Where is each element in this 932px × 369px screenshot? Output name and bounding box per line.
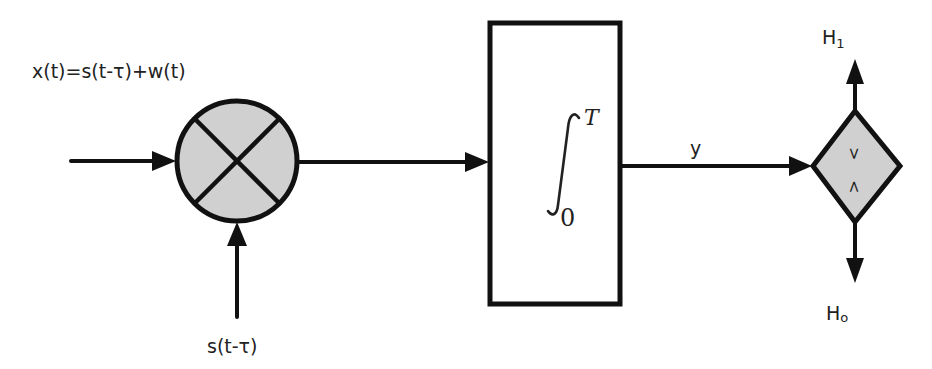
greater-than-symbol: > [845, 147, 864, 160]
hypothesis-0-label: Ho [826, 302, 848, 325]
integral-lower-limit: 0 [560, 204, 575, 232]
output-arrow [620, 156, 812, 176]
output-label: y [690, 137, 701, 159]
input-arrow [71, 151, 176, 171]
h0-arrow [846, 222, 864, 283]
comparator-block: > < [813, 111, 900, 222]
input-signal-label: x(t)=s(t-τ)+w(t) [32, 60, 186, 82]
hypothesis-1-label: H1 [822, 26, 845, 51]
reference-signal-label: s(t-τ) [207, 335, 257, 357]
reference-arrow [227, 222, 247, 317]
integrator-block: T 0 [490, 23, 620, 304]
integral-upper-limit: T [584, 105, 601, 130]
h1-arrow [846, 59, 864, 110]
multiplier-to-integrator-arrow [298, 152, 489, 172]
block-diagram: x(t)=s(t-τ)+w(t) s(t-τ) T 0 y > < [0, 0, 932, 369]
less-than-symbol: < [845, 180, 864, 193]
multiplier-block [177, 101, 297, 221]
